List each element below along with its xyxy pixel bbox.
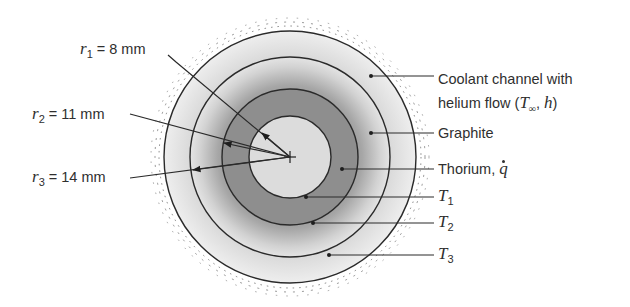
coolant-label: Coolant channel with helium flow (T∞, h) bbox=[438, 68, 573, 120]
h-symbol: h bbox=[544, 93, 553, 112]
r2-value: = 11 mm bbox=[49, 106, 105, 122]
r3-symbol: r bbox=[32, 167, 39, 186]
t-infinity-symbol: T bbox=[519, 93, 528, 112]
r2-label: r2 = 11 mm bbox=[32, 106, 105, 127]
r3-label: r3 = 14 mm bbox=[32, 169, 106, 190]
graphite-label: Graphite bbox=[438, 125, 494, 141]
r2-symbol: r bbox=[32, 104, 39, 123]
r1-value: = 8 mm bbox=[97, 41, 146, 57]
r1-subscript: 1 bbox=[87, 48, 93, 60]
r3-value: = 14 mm bbox=[49, 169, 106, 185]
thorium-label: Thorium, q bbox=[438, 161, 508, 177]
r2-subscript: 2 bbox=[39, 113, 45, 125]
coolant-label-line1: Coolant channel with bbox=[438, 68, 573, 91]
t3-label: T3 bbox=[438, 246, 454, 267]
r1-symbol: r bbox=[80, 39, 87, 58]
t2-label: T2 bbox=[438, 214, 454, 235]
r3-subscript: 3 bbox=[39, 176, 45, 188]
t1-label: T1 bbox=[438, 188, 454, 209]
coolant-label-line2: helium flow (T∞, h) bbox=[438, 91, 573, 120]
r1-label: r1 = 8 mm bbox=[80, 41, 146, 62]
q-dot-symbol: q bbox=[499, 161, 508, 177]
